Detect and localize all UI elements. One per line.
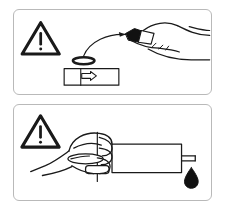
remove-seal-panel — [13, 9, 212, 95]
cartridge-slot-part — [64, 69, 119, 86]
page-title: Toner Cartridge Handling Caution Illustr… — [0, 21, 1, 22]
ink-droplet-icon — [184, 168, 198, 189]
roller-drum-part — [112, 144, 195, 172]
warning-triangle-icon — [22, 23, 59, 54]
illustration-sheet: Toner Cartridge Handling Caution Illustr… — [0, 0, 225, 211]
curved-arrow-icon — [84, 32, 126, 56]
handle-roller-panel — [13, 104, 212, 201]
remove-seal-artwork — [14, 10, 211, 94]
warning-triangle-icon — [22, 116, 59, 147]
sealing-ring-part — [73, 57, 94, 64]
hand-holding-applicator — [126, 23, 210, 60]
handle-roller-artwork — [14, 105, 211, 200]
roller-flange-part — [68, 154, 109, 174]
